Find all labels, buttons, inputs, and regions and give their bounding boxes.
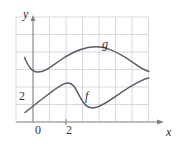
x-axis-arrowhead <box>157 120 164 125</box>
curve-label-f: f <box>85 90 88 102</box>
curve-label-g: g <box>102 38 108 50</box>
y-axis-label: y <box>23 8 28 20</box>
x-axis-label: x <box>166 126 171 138</box>
graph-figure: y x 0 2 2 g f <box>0 0 179 151</box>
y-axis-arrowhead <box>31 15 36 21</box>
curve-g <box>25 47 149 72</box>
plot-canvas <box>0 0 179 151</box>
x-tick-label-0: 0 <box>35 124 41 136</box>
y-tick-label-2: 2 <box>19 90 25 102</box>
grid-lines <box>16 17 149 122</box>
x-tick-label-2: 2 <box>66 124 72 136</box>
